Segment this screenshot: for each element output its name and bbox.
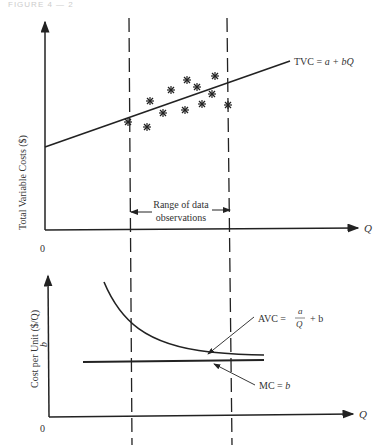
- bottom-x-axis: [49, 414, 353, 417]
- top-x-axis-label: Q: [364, 222, 372, 234]
- avc-label: AVC = a Q + b: [258, 306, 323, 329]
- cost-diagram: 0 Q Total Variable Costs ($) TVC = a + b…: [0, 0, 380, 445]
- top-origin-label: 0: [40, 243, 45, 254]
- svg-text:a: a: [298, 306, 303, 316]
- mc-label: MC = b: [259, 380, 290, 391]
- tvc-line: [45, 61, 290, 147]
- tvc-label: TVC = a + bQ: [294, 56, 354, 67]
- top-x-axis: [45, 228, 358, 230]
- range-label-line1: Range of data: [153, 199, 209, 210]
- bottom-origin-label: 0: [40, 423, 45, 434]
- range-annotation: Range of data observations: [131, 199, 230, 223]
- svg-text:Q: Q: [296, 319, 303, 329]
- top-y-axis-label: Total Variable Costs ($): [17, 135, 29, 230]
- range-label-line2: observations: [156, 212, 207, 223]
- svg-text:+ b: + b: [310, 313, 323, 324]
- bottom-x-axis-label: Q: [359, 408, 367, 420]
- bottom-y-axis-label: Cost per Unit ($/Q): [29, 310, 41, 388]
- range-left-dashed-line: [129, 18, 132, 445]
- svg-text:AVC =: AVC =: [258, 313, 286, 324]
- b-tick-label: b: [38, 342, 49, 347]
- mc-line: [83, 360, 264, 362]
- data-observation-points: [124, 72, 232, 131]
- avc-curve: [104, 282, 264, 355]
